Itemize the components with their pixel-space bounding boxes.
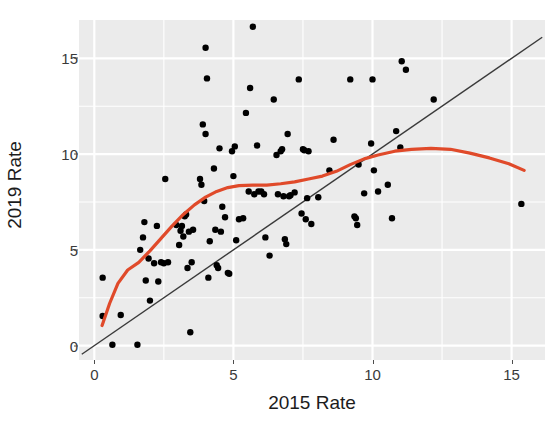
x-tick-label: 15 — [492, 366, 532, 383]
x-tick-mark — [512, 360, 513, 364]
x-tick-label: 10 — [353, 366, 393, 383]
y-tick-label: 0 — [38, 337, 78, 354]
y-axis-ticks: 051015 — [30, 0, 78, 426]
y-tick-label: 5 — [38, 241, 78, 258]
x-tick-mark — [233, 360, 234, 364]
gridlines-major — [79, 20, 545, 360]
plot-panel — [79, 20, 545, 360]
y-tick-label: 10 — [38, 146, 78, 163]
smooth-trend-line — [102, 148, 524, 325]
x-axis-title-text: 2015 Rate — [268, 392, 356, 413]
x-tick-label: 0 — [74, 366, 114, 383]
scatter-plot-figure: 2019 Rate 051015 051015 2015 Rate — [0, 0, 559, 426]
y-tick-mark — [74, 58, 78, 59]
y-tick-mark — [74, 154, 78, 155]
y-tick-label: 15 — [38, 50, 78, 67]
scatter-points — [99, 24, 524, 348]
y-axis-title-text: 2019 Rate — [4, 141, 26, 229]
identity-reference-line — [82, 37, 542, 354]
x-axis-title: 2015 Rate — [79, 392, 545, 414]
x-tick-mark — [94, 360, 95, 364]
y-tick-mark — [74, 249, 78, 250]
y-tick-mark — [74, 345, 78, 346]
gridlines-minor — [79, 20, 545, 360]
plot-canvas — [79, 20, 545, 360]
x-tick-mark — [373, 360, 374, 364]
x-tick-label: 5 — [213, 366, 253, 383]
y-axis-title: 2019 Rate — [0, 0, 30, 370]
